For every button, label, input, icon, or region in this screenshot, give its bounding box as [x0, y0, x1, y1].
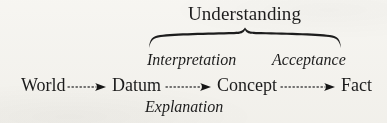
acceptance-label: Acceptance: [272, 52, 346, 68]
chain-node-world: World: [21, 74, 66, 96]
understanding-text: Understanding: [188, 3, 301, 24]
interpretation-label: Interpretation: [147, 52, 236, 68]
arrow-world-to-datum-icon: [67, 82, 107, 92]
concept-chain: World Datum Concept Fact: [0, 74, 387, 96]
arrow-datum-to-concept-icon: [165, 82, 212, 92]
arrow-concept-to-fact-icon: [280, 82, 336, 92]
chain-node-concept: Concept: [217, 74, 277, 96]
understanding-label: Understanding: [0, 4, 387, 23]
grouping-brace-icon: [146, 27, 346, 49]
explanation-label: Explanation: [145, 99, 223, 115]
chain-node-datum: Datum: [112, 74, 161, 96]
chain-node-fact: Fact: [341, 74, 372, 96]
diagram-canvas: Understanding Interpretation Acceptance …: [0, 0, 387, 123]
